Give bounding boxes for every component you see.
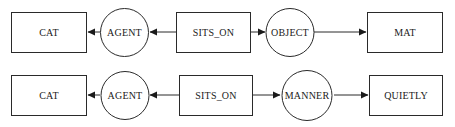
graph-row-1: CAT AGENT SITS_ON OBJECT MAT: [12, 9, 443, 57]
node-label: AGENT: [107, 27, 142, 38]
node-label: MAT: [394, 27, 416, 38]
concept-node-sits-on: SITS_ON: [177, 13, 251, 53]
relation-node-manner: MANNER: [282, 71, 332, 121]
node-label: QUIETLY: [384, 90, 428, 101]
relation-node-agent: AGENT: [101, 9, 149, 57]
concept-node-quietly: QUIETLY: [370, 76, 443, 116]
node-label: CAT: [39, 90, 59, 101]
concept-node-cat: CAT: [12, 76, 87, 116]
conceptual-graph-diagram: CAT AGENT SITS_ON OBJECT MAT CAT: [0, 0, 455, 127]
node-label: SITS_ON: [193, 27, 234, 38]
node-label: CAT: [39, 27, 59, 38]
node-label: SITS_ON: [195, 90, 236, 101]
node-label: OBJECT: [271, 27, 309, 38]
relation-node-object: OBJECT: [266, 9, 314, 57]
node-label: AGENT: [108, 90, 143, 101]
graph-row-2: CAT AGENT SITS_ON MANNER QUIETLY: [12, 71, 443, 121]
concept-node-sits-on: SITS_ON: [180, 76, 253, 116]
concept-node-mat: MAT: [368, 13, 443, 53]
node-label: MANNER: [285, 90, 330, 101]
relation-node-agent: AGENT: [101, 72, 149, 120]
concept-node-cat: CAT: [12, 13, 87, 53]
